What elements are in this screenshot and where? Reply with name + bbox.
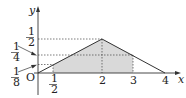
x-tick-3: 3 [130, 74, 137, 87]
y-tick-eighth-den: 8 [13, 76, 20, 89]
y-tick-quarter-den: 4 [13, 51, 20, 64]
y-tick-half-den: 2 [28, 36, 35, 49]
x-axis-label: x [178, 73, 185, 86]
leader-eighth-arrow-icon [31, 65, 37, 69]
x-tick-half-den: 2 [51, 83, 58, 96]
origin-label: O [26, 71, 35, 84]
leader-quarter-arrow-icon [31, 52, 37, 56]
x-tick-4: 4 [162, 74, 169, 87]
chart-figure: y x O 1 2 2 3 4 1 2 1 4 1 8 [0, 0, 186, 98]
x-tick-2: 2 [99, 74, 106, 87]
y-axis-label: y [28, 4, 36, 17]
y-axis-arrow-icon [36, 6, 40, 12]
